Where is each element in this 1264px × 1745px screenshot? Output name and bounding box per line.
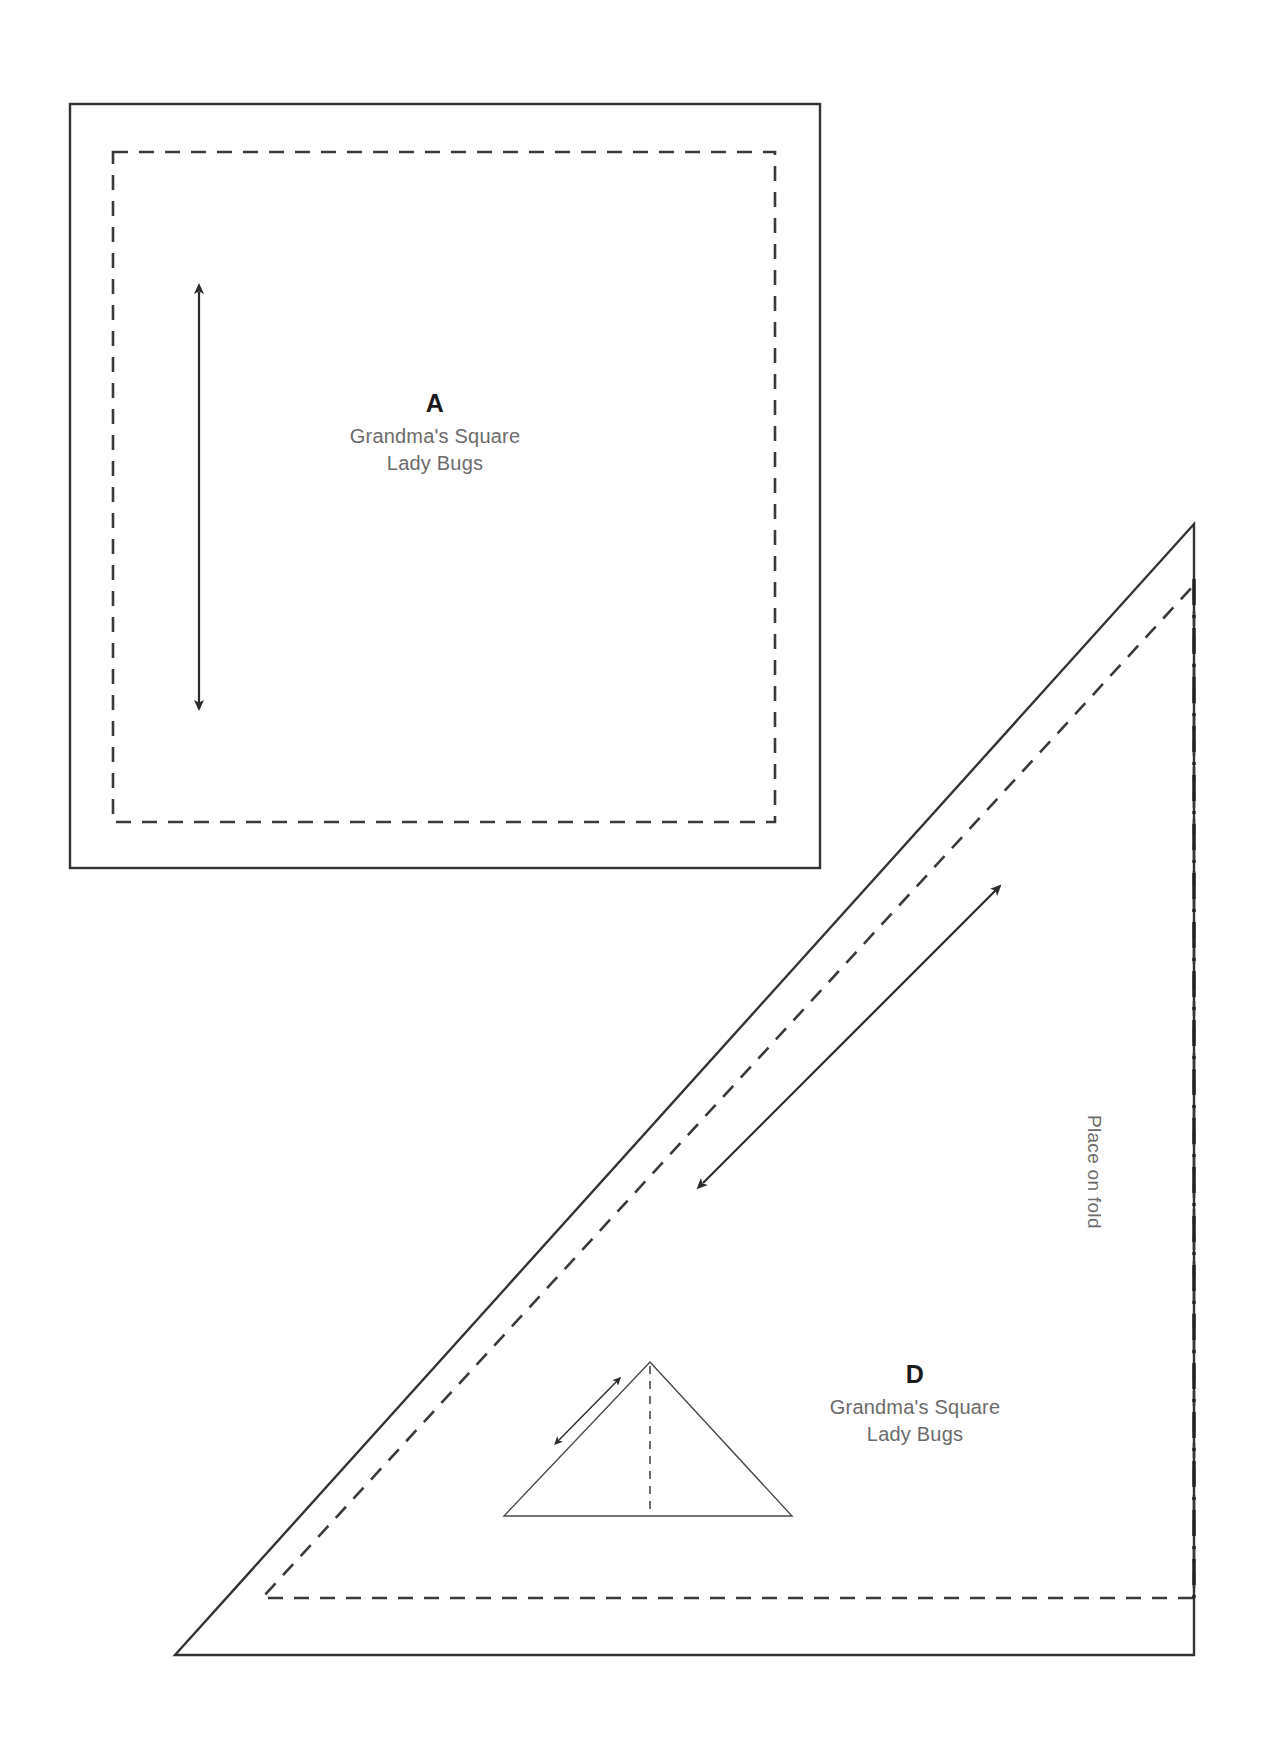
piece-d-grain-arrow [703, 886, 1000, 1183]
piece-d-inner-triangle-outline [504, 1362, 792, 1516]
piece-d-cut-line [175, 524, 1194, 1655]
piece-d-pattern-name: Grandma's Square [765, 1394, 1065, 1421]
pattern-sheet: A Grandma's Square Lady Bugs D Grandma's… [0, 0, 1264, 1745]
piece-a-fabric-name: Lady Bugs [285, 450, 585, 477]
piece-a-group [70, 104, 820, 868]
piece-d-label: D Grandma's Square Lady Bugs [765, 1362, 1065, 1448]
piece-d-group [175, 524, 1194, 1655]
place-on-fold-label: Place on fold [1083, 1115, 1105, 1315]
piece-a-seam-line [113, 152, 775, 822]
piece-d-inner-triangle [504, 1362, 792, 1516]
piece-a-label: A Grandma's Square Lady Bugs [285, 391, 585, 477]
piece-d-fabric-name: Lady Bugs [765, 1421, 1065, 1448]
piece-a-cut-line [70, 104, 820, 868]
piece-d-letter: D [765, 1362, 1065, 1387]
piece-a-letter: A [285, 391, 585, 416]
piece-d-inner-triangle-grain-arrow [559, 1378, 620, 1440]
pattern-drawing [0, 0, 1264, 1745]
piece-a-pattern-name: Grandma's Square [285, 423, 585, 450]
